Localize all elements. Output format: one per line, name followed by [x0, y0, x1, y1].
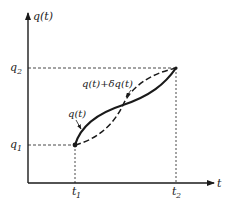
start-point [73, 143, 78, 148]
actual-path-pointer-arrow [76, 120, 81, 129]
diagram-canvas: q(t) t q 2 q 1 t 1 t 2 q(t) q(t)+δq(t) [0, 0, 230, 207]
svg-text:2: 2 [175, 191, 181, 200]
y-axis-label: q(t) [33, 10, 53, 23]
svg-text:1: 1 [17, 144, 22, 153]
svg-text:1: 1 [76, 191, 81, 200]
t2-tick-label: t 2 [172, 185, 181, 200]
q1-tick-label: q 1 [10, 138, 22, 153]
actual-path-label: q(t) [68, 108, 86, 119]
svg-text:q: q [10, 61, 17, 74]
t1-tick-label: t 1 [72, 185, 81, 200]
end-point [174, 66, 177, 69]
svg-text:2: 2 [16, 67, 22, 76]
svg-text:q: q [10, 138, 17, 151]
q2-tick-label: q 2 [10, 61, 22, 76]
varied-path-label: q(t)+δq(t) [82, 78, 133, 89]
x-axis-label: t [217, 177, 222, 190]
